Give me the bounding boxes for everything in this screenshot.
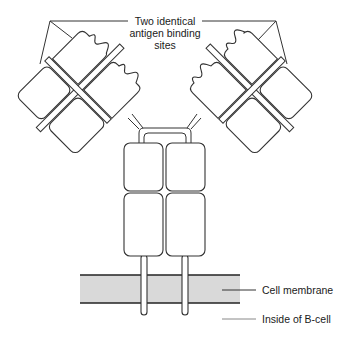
cell-membrane — [80, 275, 240, 303]
membrane-label-text: Cell membrane — [262, 284, 333, 296]
inside-cell-label-text: Inside of B-cell — [262, 313, 331, 325]
heavy-chain-ch2-left — [124, 143, 163, 191]
inside-cell-label: Inside of B-cell — [222, 313, 331, 325]
hinge-region — [128, 114, 201, 143]
binding-sites-label-line3: sites — [154, 39, 176, 51]
fc-stem — [124, 143, 205, 256]
antibody-diagram: Two identical antigen binding sites Cell… — [0, 0, 354, 341]
heavy-chain-ch3-right — [166, 193, 205, 256]
heavy-chain-ch2-right — [166, 143, 205, 191]
heavy-chain-ch3-left — [124, 193, 163, 256]
binding-sites-label-line2: antigen binding — [129, 27, 200, 39]
binding-sites-label-line1: Two identical — [135, 15, 196, 27]
